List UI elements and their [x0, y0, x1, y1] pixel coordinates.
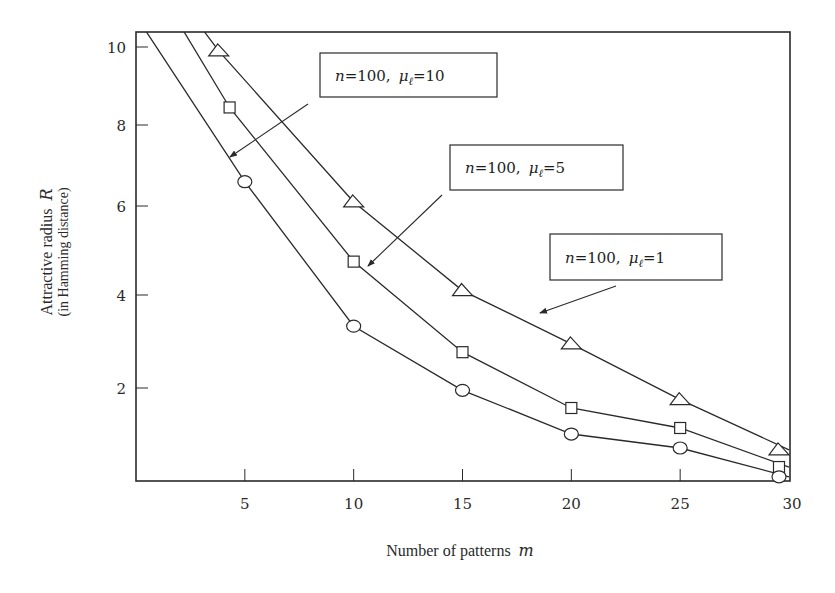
- data-point-circle: [456, 384, 470, 396]
- x-axis: 51015202530: [240, 469, 801, 513]
- annotation-arrow: [368, 195, 442, 266]
- x-axis-title: Number of patternsm: [386, 541, 534, 560]
- y-tick-label: 6: [116, 198, 126, 216]
- data-point-circle: [673, 442, 687, 454]
- x-tick-label: 25: [671, 495, 690, 513]
- y-axis-subtitle: (in Hamming distance): [56, 187, 72, 316]
- data-point-circle: [238, 176, 252, 188]
- x-tick-label: 15: [453, 495, 472, 513]
- y-axis-title: Attractive radiusR (in Hamming distance): [37, 187, 72, 316]
- annotation-label: n=100,μℓ=1: [565, 249, 665, 270]
- data-point-square: [566, 402, 577, 413]
- data-point-square: [348, 256, 359, 267]
- annotation-label: n=100,μℓ=5: [465, 159, 565, 180]
- annotation-arrow: [230, 104, 308, 157]
- annotation-arrow: [540, 286, 616, 313]
- data-point-circle: [347, 320, 361, 332]
- y-tick-label: 8: [116, 117, 126, 135]
- data-point-triangle: [561, 337, 581, 349]
- y-axis-title-main: Attractive radiusR: [37, 188, 56, 315]
- data-point-triangle: [670, 393, 690, 405]
- x-tick-label: 5: [240, 495, 250, 513]
- data-point-triangle: [344, 195, 364, 207]
- x-tick-label: 20: [562, 495, 581, 513]
- chart: 246810 51015202530 n=100,μℓ=10 n=100,μℓ=…: [0, 0, 835, 593]
- y-axis: 246810: [107, 39, 148, 398]
- y-tick-label: 10: [107, 39, 126, 57]
- annotation-mu10: n=100,μℓ=10: [230, 53, 497, 157]
- x-tick-label: 10: [344, 495, 363, 513]
- data-point-square: [224, 102, 235, 113]
- data-point-square: [457, 347, 468, 358]
- annotation-mu1: n=100,μℓ=1: [540, 234, 722, 313]
- data-point-circle: [564, 428, 578, 440]
- annotation-label: n=100,μℓ=10: [335, 67, 445, 88]
- data-point-square: [675, 422, 686, 433]
- data-point-circle: [772, 471, 786, 483]
- x-tick-label: 30: [782, 495, 801, 513]
- y-tick-label: 2: [116, 380, 126, 398]
- data-point-triangle: [209, 44, 229, 56]
- y-tick-label: 4: [116, 287, 126, 305]
